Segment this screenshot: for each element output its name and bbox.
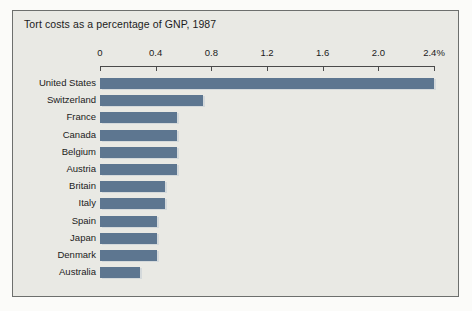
bar-row[interactable]: Denmark [0, 250, 472, 262]
x-axis-tick-label: 0 [97, 47, 102, 58]
bar-row[interactable]: Britain [0, 181, 472, 193]
x-axis-tick [211, 66, 212, 71]
x-axis-tick-label: 1.6 [316, 47, 329, 58]
bar-category-label: France [6, 111, 96, 122]
bar-row[interactable]: Belgium [0, 147, 472, 159]
bar[interactable] [100, 233, 157, 244]
x-axis-tick-label: 2.0 [372, 47, 385, 58]
bar-category-label: Switzerland [6, 94, 96, 105]
bar-category-label: Denmark [6, 249, 96, 260]
x-axis-tick [378, 66, 379, 71]
bar[interactable] [100, 112, 177, 123]
bar-row[interactable]: United States [0, 78, 472, 90]
bar[interactable] [100, 267, 140, 278]
bar-category-label: Italy [6, 197, 96, 208]
bar-category-label: Australia [6, 266, 96, 277]
plot-area: 00.40.81.21.62.02.4% United StatesSwitze… [0, 0, 472, 311]
bar[interactable] [100, 78, 434, 89]
bar-category-label: Spain [6, 215, 96, 226]
x-axis-tick [100, 66, 101, 71]
bar[interactable] [100, 164, 177, 175]
bar[interactable] [100, 198, 165, 209]
bar-row[interactable]: Australia [0, 267, 472, 279]
bar-category-label: Britain [6, 180, 96, 191]
x-axis-tick-label: 0.4 [149, 47, 162, 58]
bar-category-label: Canada [6, 129, 96, 140]
x-axis-tick [434, 66, 435, 71]
bar-row[interactable]: Canada [0, 130, 472, 142]
bar[interactable] [100, 250, 157, 261]
bar-row[interactable]: Switzerland [0, 95, 472, 107]
bar-row[interactable]: France [0, 112, 472, 124]
bar[interactable] [100, 216, 157, 227]
bar-category-label: Austria [6, 163, 96, 174]
bar-row[interactable]: Japan [0, 233, 472, 245]
bar-category-label: Belgium [6, 146, 96, 157]
bar[interactable] [100, 95, 203, 106]
bar-row[interactable]: Spain [0, 216, 472, 228]
bar[interactable] [100, 147, 177, 158]
x-axis-tick-label: 1.2 [260, 47, 273, 58]
bar-row[interactable]: Italy [0, 198, 472, 210]
screenshot-root: Tort costs as a percentage of GNP, 1987 … [0, 0, 472, 311]
bar-row[interactable]: Austria [0, 164, 472, 176]
bar-category-label: United States [6, 77, 96, 88]
x-axis-tick [323, 66, 324, 71]
bar[interactable] [100, 181, 165, 192]
x-axis-tick [267, 66, 268, 71]
x-axis-tick [156, 66, 157, 71]
x-axis-tick-label: 2.4% [423, 47, 445, 58]
x-axis-tick-label: 0.8 [205, 47, 218, 58]
bar-category-label: Japan [6, 232, 96, 243]
bar[interactable] [100, 130, 177, 141]
